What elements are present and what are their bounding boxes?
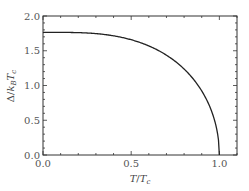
- axis-ticks: [43, 16, 237, 155]
- bcs-gap-chart: 0.00.51.00.00.51.01.52.0 T/Tc Δ/kBTc: [0, 0, 249, 191]
- x-tick-label: 1.0: [211, 158, 227, 169]
- y-tick-label: 1.0: [24, 80, 40, 91]
- plot-frame: [43, 16, 237, 155]
- gap-curve: [43, 32, 219, 155]
- y-tick-label: 2.0: [24, 11, 40, 22]
- x-tick-label: 0.5: [123, 158, 139, 169]
- tick-labels: 0.00.51.00.00.51.01.52.0: [24, 11, 227, 170]
- x-axis-label: T/Tc: [130, 173, 151, 186]
- y-tick-label: 0.5: [24, 115, 40, 126]
- y-tick-label: 1.5: [24, 45, 40, 56]
- y-tick-label: 0.0: [24, 150, 40, 161]
- y-axis-label: Δ/kBTc: [5, 70, 18, 102]
